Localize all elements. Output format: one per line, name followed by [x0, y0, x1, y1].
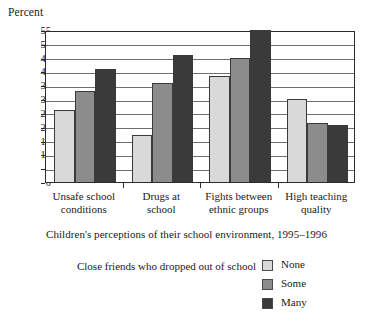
bar [209, 76, 230, 182]
x-axis-category-line: ethnic groups [200, 203, 278, 216]
x-axis-category-line: High teaching [278, 190, 356, 203]
x-axis-category-line: Drugs at [123, 190, 201, 203]
bar [250, 30, 271, 182]
legend-label: Many [281, 296, 307, 308]
x-axis-category-label: High teachingquality [278, 190, 356, 216]
legend-swatch [262, 298, 273, 309]
y-axis-title: Percent [8, 6, 43, 18]
bar [75, 91, 96, 182]
bar [54, 110, 75, 182]
x-axis-category-label: Drugs atschool [123, 190, 201, 216]
bar [95, 69, 116, 182]
bar [152, 83, 173, 182]
bar [307, 123, 328, 182]
bar [173, 55, 194, 182]
plot-area [45, 31, 355, 183]
legend-title: Close friends who dropped out of school [60, 260, 256, 272]
bar [287, 99, 308, 182]
bar [230, 58, 251, 182]
bar-chart-figure: Percent 0510152025303540455055 Unsafe sc… [0, 0, 373, 329]
y-axis-tick-mark [41, 183, 45, 184]
x-axis-category-line: Unsafe school [45, 190, 123, 203]
legend-label: None [281, 258, 305, 270]
x-axis-category-label: Unsafe schoolconditions [45, 190, 123, 216]
bar [132, 135, 153, 182]
x-axis-tick-mark [200, 183, 201, 188]
x-axis-category-line: quality [278, 203, 356, 216]
legend-swatch [262, 279, 273, 290]
legend-label: Some [281, 277, 306, 289]
bar [328, 125, 349, 182]
x-axis-category-line: conditions [45, 203, 123, 216]
x-axis-category-label: Fights betweenethnic groups [200, 190, 278, 216]
bar-series-container [46, 32, 354, 182]
x-axis-tick-mark [123, 183, 124, 188]
figure-caption: Children's perceptions of their school e… [0, 228, 373, 240]
x-axis-category-line: Fights between [200, 190, 278, 203]
legend: Close friends who dropped out of school … [60, 258, 360, 320]
x-axis-category-line: school [123, 203, 201, 216]
x-axis-tick-mark [278, 183, 279, 188]
legend-swatch [262, 260, 273, 271]
